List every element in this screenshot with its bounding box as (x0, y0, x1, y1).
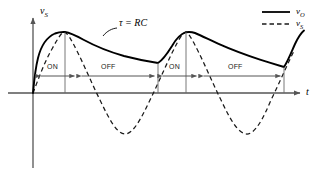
waveform-plot (0, 0, 325, 184)
legend-label-source: vS (296, 19, 303, 30)
off-interval-label-1: OFF (101, 63, 116, 70)
x-axis-label: t (306, 87, 309, 97)
source-voltage-curve (33, 32, 294, 134)
output-voltage-curve (33, 31, 304, 94)
legend-swatches (262, 12, 290, 24)
tau-annotation: τ = RC (119, 18, 147, 28)
tau-leader-line (103, 28, 117, 36)
y-axis-label: vS (40, 6, 48, 19)
legend-label-output: vO (296, 7, 305, 18)
waveform-figure: vS t τ = RC ON OFF ON OFF vO vS (0, 0, 325, 184)
off-interval-label-2: OFF (228, 63, 243, 70)
on-interval-label-2: ON (169, 63, 180, 70)
on-interval-label-1: ON (47, 63, 58, 70)
